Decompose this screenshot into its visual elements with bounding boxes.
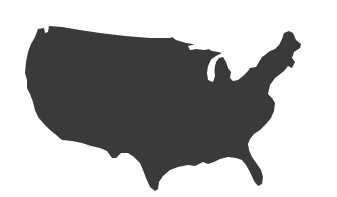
contiguous-us-shape (25, 26, 301, 191)
image-canvas: Silhouette of the contiguous United Stat… (0, 0, 337, 197)
us-map-silhouette (0, 0, 337, 197)
